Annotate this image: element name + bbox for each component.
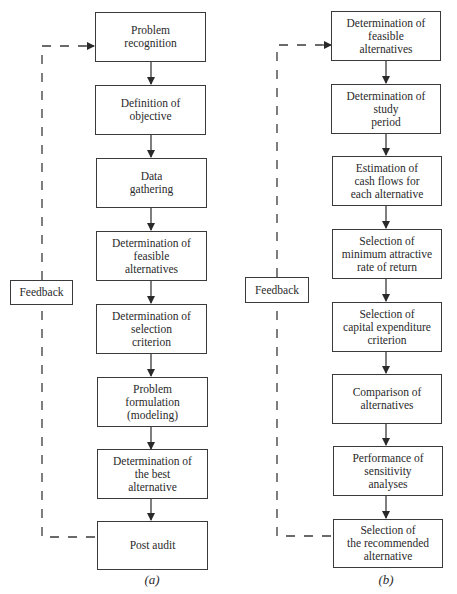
step-a-problem-formulation: Problem formulation (modeling) — [97, 377, 208, 427]
step-b-study-period: Determination of study period — [331, 84, 441, 134]
step-label: Comparison of alternatives — [353, 386, 422, 412]
step-label: Post audit — [130, 539, 176, 552]
step-label: Selection of capital expenditure criteri… — [343, 308, 431, 347]
step-label: Data gathering — [130, 170, 173, 196]
step-b-feasible-alternatives: Determination of feasible alternatives — [331, 11, 441, 61]
feedback-label: Feedback — [19, 286, 63, 299]
step-label: Determination of the best alternative — [113, 455, 192, 494]
step-label: Determination of feasible alternatives — [347, 17, 426, 56]
step-b-capital-expenditure-criterion: Selection of capital expenditure criteri… — [332, 302, 442, 352]
step-b-comparison: Comparison of alternatives — [332, 374, 442, 424]
step-label: Determination of feasible alternatives — [112, 237, 191, 276]
step-label: Definition of objective — [121, 97, 181, 123]
step-a-definition-of-objective: Definition of objective — [95, 85, 206, 135]
step-label: Selection of minimum attractive rate of … — [342, 235, 432, 274]
step-a-best-alternative: Determination of the best alternative — [97, 449, 208, 499]
step-a-problem-recognition: Problem recognition — [95, 12, 206, 62]
step-a-selection-criterion: Determination of selection criterion — [96, 304, 207, 354]
caption-b: (b) — [366, 572, 406, 588]
step-a-feasible-alternatives: Determination of feasible alternatives — [96, 231, 207, 281]
step-label: Determination of selection criterion — [112, 310, 191, 349]
step-a-data-gathering: Data gathering — [96, 158, 207, 208]
feedback-box-a: Feedback — [10, 280, 73, 305]
step-label: Estimation of cash flows for each altern… — [351, 162, 423, 201]
step-b-marr: Selection of minimum attractive rate of … — [332, 229, 442, 279]
feedback-label: Feedback — [255, 284, 299, 297]
step-b-recommended-alternative: Selection of the recommended alternative — [333, 519, 443, 568]
step-label: Performance of sensitivity analyses — [352, 452, 423, 491]
step-label: Problem formulation (modeling) — [125, 383, 179, 422]
feedback-box-b: Feedback — [245, 277, 309, 303]
step-label: Determination of study period — [347, 90, 426, 129]
step-label: Problem recognition — [124, 24, 176, 50]
step-a-post-audit: Post audit — [97, 521, 208, 570]
step-b-cash-flows: Estimation of cash flows for each altern… — [332, 156, 442, 206]
step-b-sensitivity-analyses: Performance of sensitivity analyses — [333, 446, 443, 496]
caption-a: (a) — [132, 572, 172, 588]
step-label: Selection of the recommended alternative — [347, 524, 429, 563]
